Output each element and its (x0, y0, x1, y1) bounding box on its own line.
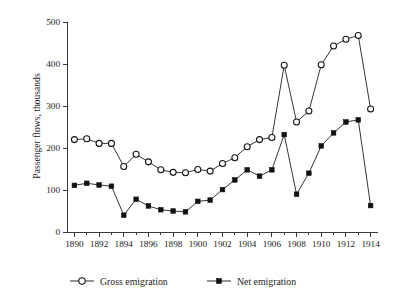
data-point (145, 159, 151, 165)
data-point (257, 174, 262, 179)
y-tick-label: 100 (46, 185, 60, 195)
x-tick-label: 1900 (189, 239, 208, 249)
data-point (108, 140, 114, 146)
data-point (282, 132, 287, 137)
data-point (109, 184, 114, 189)
data-point (195, 166, 201, 172)
data-point (331, 131, 336, 136)
x-tick-label: 1906 (263, 239, 282, 249)
x-tick-label: 1898 (164, 239, 183, 249)
data-point (331, 43, 337, 49)
data-point (281, 62, 287, 68)
data-point (183, 210, 188, 215)
data-point (344, 120, 349, 125)
data-point (121, 163, 127, 169)
data-point (368, 203, 373, 208)
x-tick-label: 1892 (90, 239, 109, 249)
x-tick-label: 1910 (312, 239, 331, 249)
y-tick-label: 500 (46, 17, 60, 27)
data-point (96, 140, 102, 146)
data-point (97, 183, 102, 188)
data-point (146, 204, 151, 209)
data-point (134, 197, 139, 202)
data-point (233, 178, 238, 183)
data-point (244, 144, 250, 150)
y-axis-label: Passenger flows, thousands (31, 73, 42, 179)
data-point (182, 170, 188, 176)
legend-label: Net emigration (237, 276, 296, 287)
data-point (84, 136, 90, 142)
data-point (158, 167, 164, 173)
x-tick-label: 1908 (287, 239, 306, 249)
chart-background (0, 0, 400, 299)
y-tick-label: 400 (46, 59, 60, 69)
data-point (133, 151, 139, 157)
emigration-line-chart: Passenger flows, thousands 0100200300400… (0, 0, 400, 299)
data-point (170, 169, 176, 175)
x-tick-label: 1912 (337, 239, 356, 249)
data-point (71, 137, 77, 143)
data-point (121, 213, 126, 218)
data-point (220, 161, 226, 167)
x-tick-label: 1896 (139, 239, 158, 249)
data-point (294, 119, 300, 125)
data-point (232, 155, 238, 161)
x-tick-label: 1914 (361, 239, 380, 249)
data-point (368, 106, 374, 112)
data-point (84, 181, 89, 186)
data-point (319, 144, 324, 149)
open-circle-icon (79, 278, 85, 284)
y-tick-label: 0 (55, 227, 60, 237)
data-point (269, 135, 275, 141)
data-point (356, 118, 361, 123)
y-tick-label: 200 (46, 143, 60, 153)
data-point (318, 62, 324, 68)
x-tick-label: 1902 (213, 239, 232, 249)
x-tick-label: 1904 (238, 239, 257, 249)
x-tick-label: 1890 (65, 239, 84, 249)
data-point (343, 36, 349, 42)
data-point (158, 207, 163, 212)
data-point (245, 168, 250, 173)
data-point (307, 171, 312, 176)
data-point (72, 183, 77, 188)
data-point (355, 32, 361, 38)
data-point (257, 137, 263, 143)
y-tick-label: 300 (46, 101, 60, 111)
legend-label: Gross emigration (100, 276, 168, 287)
data-point (270, 168, 275, 173)
data-point (207, 168, 213, 174)
data-point (306, 108, 312, 114)
data-point (220, 187, 225, 192)
filled-square-icon (217, 279, 222, 284)
data-point (208, 198, 213, 203)
x-tick-label: 1894 (115, 239, 134, 249)
data-point (294, 192, 299, 197)
data-point (196, 199, 201, 204)
y-axis-label-text: Passenger flows, thousands (31, 73, 42, 179)
data-point (171, 209, 176, 214)
